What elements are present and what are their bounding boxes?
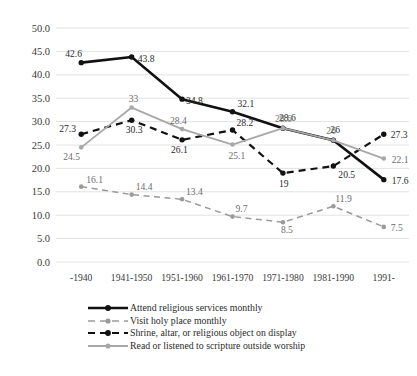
legend-label-2: Shrine, altar, or religious object on di…	[130, 327, 297, 340]
line-chart: 0.05.010.015.020.025.030.035.040.045.050…	[0, 0, 417, 376]
data-point-marker	[79, 145, 84, 150]
series-line	[81, 57, 384, 180]
data-point-label: 22.1	[392, 154, 409, 165]
data-point-label: 27.3	[59, 123, 76, 134]
data-point-marker	[129, 192, 134, 197]
data-point-label: 26	[326, 125, 336, 136]
legend-key-solid-gray	[86, 340, 130, 352]
data-point-label: 8.5	[281, 224, 293, 235]
y-axis-tick-label: 25.0	[32, 140, 50, 151]
data-point-marker	[129, 105, 134, 110]
data-point-label: 42.6	[65, 48, 82, 59]
data-point-label: 11.9	[335, 193, 352, 204]
chart-legend: Attend religious services monthly Visit …	[86, 302, 386, 352]
y-axis-tick-label: 40.0	[32, 69, 50, 80]
data-point-marker	[129, 117, 134, 122]
data-point-label: 26.1	[171, 144, 188, 155]
data-point-marker	[179, 96, 184, 101]
data-point-marker	[179, 137, 184, 142]
data-point-marker	[230, 109, 235, 114]
data-point-label: 17.6	[392, 175, 409, 186]
legend-label-1: Visit holy place monthly	[130, 315, 227, 328]
y-axis-tick-label: 10.0	[32, 210, 50, 221]
data-point-label: 24.5	[63, 151, 80, 162]
legend-item-3[interactable]: Read or listened to scripture outside wo…	[86, 340, 386, 353]
data-point-label: 34.8	[186, 95, 203, 106]
data-point-label: 14.4	[136, 181, 153, 192]
data-point-marker	[381, 177, 386, 182]
y-axis-tick-label: 30.0	[32, 116, 50, 127]
data-point-marker	[180, 127, 185, 132]
data-point-marker	[129, 54, 134, 59]
y-axis-tick-label: 0.0	[37, 257, 50, 268]
data-point-marker	[381, 156, 386, 161]
data-point-label: 28.2	[237, 117, 254, 128]
data-point-marker	[230, 142, 235, 147]
data-point-label: 13.4	[186, 186, 203, 197]
x-axis-tick-label: 1981-1990	[313, 272, 355, 283]
data-point-marker	[230, 214, 235, 219]
data-point-marker	[79, 184, 84, 189]
legend-item-0[interactable]: Attend religious services monthly	[86, 302, 386, 315]
legend-key-solid-black	[86, 302, 130, 314]
data-point-marker	[180, 197, 185, 202]
x-axis-tick-label: 1961-1970	[212, 272, 254, 283]
data-point-label: 30.3	[126, 124, 143, 135]
data-point-label: 20.5	[338, 169, 355, 180]
y-axis-tick-label: 35.0	[32, 93, 50, 104]
data-point-label: 7.5	[391, 222, 403, 233]
data-point-label: 43.8	[138, 53, 155, 64]
legend-item-2[interactable]: Shrine, altar, or religious object on di…	[86, 327, 386, 340]
y-axis-tick-label: 20.0	[32, 163, 50, 174]
y-axis-tick-label: 15.0	[32, 186, 50, 197]
data-point-label: 28.4	[170, 115, 187, 126]
legend-label-0: Attend religious services monthly	[130, 302, 263, 315]
data-point-label: 32.1	[238, 98, 255, 109]
legend-label-3: Read or listened to scripture outside wo…	[130, 340, 305, 353]
x-axis-tick-label: 1991-	[373, 272, 395, 283]
data-point-marker	[331, 163, 336, 168]
legend-key-dashed-gray	[86, 315, 130, 327]
plot-area: 0.05.010.015.020.025.030.035.040.045.050…	[0, 0, 417, 300]
data-point-label: 25.1	[229, 150, 246, 161]
x-axis-tick-label: -1940	[70, 272, 93, 283]
x-axis-tick-label: 1951-1960	[161, 272, 203, 283]
data-point-marker	[331, 204, 336, 209]
data-point-marker	[280, 170, 285, 175]
data-point-label: 16.1	[86, 174, 103, 185]
x-axis-tick-label: 1941-1950	[111, 272, 153, 283]
y-axis-tick-label: 45.0	[32, 46, 50, 57]
data-point-label: 19	[279, 178, 289, 189]
data-point-marker	[79, 132, 84, 137]
data-point-label: 27.3	[391, 129, 408, 140]
x-axis-tick-label: 1971-1980	[262, 272, 304, 283]
data-point-marker	[331, 138, 336, 143]
y-axis-tick-label: 5.0	[37, 233, 50, 244]
legend-item-1[interactable]: Visit holy place monthly	[86, 315, 386, 328]
data-point-marker	[230, 127, 235, 132]
legend-key-dashed-black	[86, 327, 130, 339]
data-point-label: 33	[129, 93, 139, 104]
data-point-marker	[381, 132, 386, 137]
data-point-label: 28.6	[275, 113, 292, 124]
data-point-marker	[79, 60, 84, 65]
data-point-label: 9.7	[236, 203, 248, 214]
y-axis-tick-label: 50.0	[32, 23, 50, 34]
data-point-marker	[381, 225, 386, 230]
data-point-marker	[281, 126, 286, 131]
